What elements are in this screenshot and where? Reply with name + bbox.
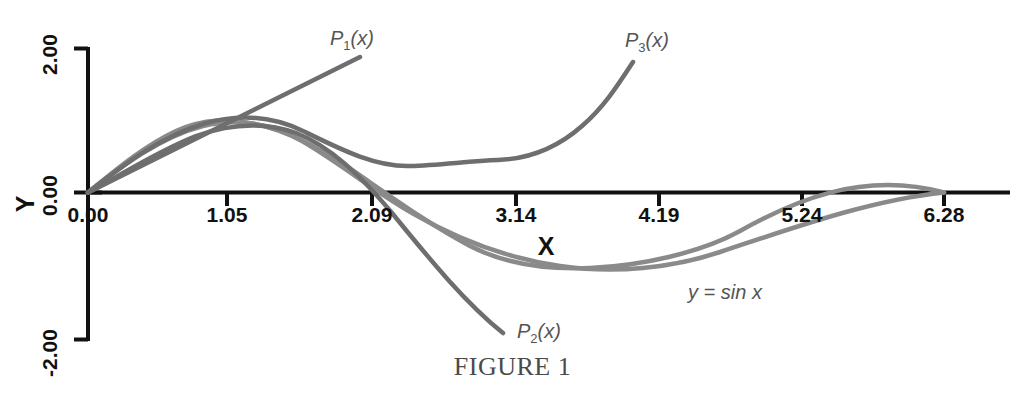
figure-container: 2.00 0.00 -2.00 Y 0.00 1.05 2.09 3.14 4.…: [0, 0, 1025, 396]
x-tick-label-3: 3.14: [496, 203, 537, 226]
x-tick-label-5: 5.24: [782, 203, 823, 226]
curve-label-p3-arg: (x): [646, 29, 669, 51]
curve-label-p3-base: P: [625, 29, 639, 51]
curve-label-p2-arg: (x): [538, 320, 561, 342]
curve-label-p1-arg: (x): [351, 27, 374, 49]
x-axis-label: X: [538, 232, 555, 260]
curve-label-sine: y = sin x: [686, 281, 763, 303]
y-tick-label-0: 0.00: [38, 175, 61, 216]
curve-p3: [88, 62, 633, 193]
curve-label-p2-base: P: [517, 320, 531, 342]
curve-label-p1: P1(x): [330, 27, 374, 53]
y-axis-label: Y: [11, 195, 39, 212]
sine-taylor-plot: 2.00 0.00 -2.00 Y 0.00 1.05 2.09 3.14 4.…: [0, 0, 1025, 396]
x-tick-label-6: 6.28: [924, 203, 965, 226]
x-tick-label-4: 4.19: [639, 203, 680, 226]
curve-label-p2-sub: 2: [530, 331, 537, 346]
x-tick-label-1: 1.05: [207, 203, 248, 226]
x-tick-label-0: 0.00: [68, 203, 109, 226]
curve-label-p1-base: P: [330, 27, 344, 49]
y-tick-label-2: 2.00: [38, 34, 61, 75]
figure-caption: FIGURE 1: [0, 352, 1025, 382]
curve-label-p1-sub: 1: [343, 38, 350, 53]
x-tick-label-2: 2.09: [352, 203, 393, 226]
curve-label-p3: P3(x): [625, 29, 669, 55]
curve-label-p2: P2(x): [517, 320, 561, 346]
curve-label-p3-sub: 3: [638, 40, 645, 55]
